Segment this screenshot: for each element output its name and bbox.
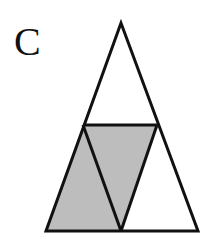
figure: C — [0, 0, 216, 239]
triangle-diagram — [0, 0, 216, 239]
